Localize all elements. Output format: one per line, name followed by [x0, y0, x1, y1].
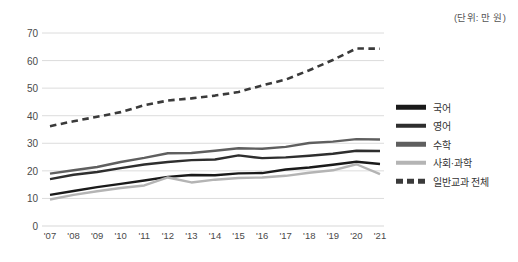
legend-dash-segment: [396, 179, 403, 184]
x-axis: '07'08'09'10'11'12'13'14'15'16'17'18'19'…: [50, 230, 380, 248]
series-line-2: [50, 139, 380, 173]
y-tick-label: 0: [32, 221, 38, 232]
legend-swatch-icon: [396, 121, 426, 131]
y-tick-label: 60: [27, 55, 38, 66]
x-tick-label: '19: [327, 230, 339, 241]
y-tick-label: 20: [27, 165, 38, 176]
x-tick-label: '18: [303, 230, 315, 241]
y-tick-label: 40: [27, 110, 38, 121]
x-tick-label: '10: [115, 230, 127, 241]
y-axis: 010203040506070: [0, 33, 44, 226]
legend-item-2[interactable]: 수학: [396, 135, 516, 154]
legend-item-label: 사회·과학: [433, 155, 472, 170]
legend-item-label: 일반교과 전체: [433, 174, 489, 189]
x-tick-label: '15: [232, 230, 244, 241]
unit-note: (단위: 만 원): [454, 10, 506, 24]
x-tick-label: '20: [350, 230, 362, 241]
legend-item-label: 수학: [433, 137, 451, 152]
x-tick-label: '09: [91, 230, 103, 241]
legend-item-label: 국어: [433, 100, 451, 115]
y-tick-label: 70: [27, 28, 38, 39]
legend-swatch-icon: [396, 102, 426, 112]
x-tick-label: '11: [138, 230, 150, 241]
legend-swatch-icon: [396, 176, 426, 186]
x-tick-label: '13: [185, 230, 197, 241]
chart-legend: 국어영어수학사회·과학일반교과 전체: [396, 98, 516, 191]
legend-item-1[interactable]: 영어: [396, 117, 516, 136]
plot-svg: [50, 33, 380, 226]
line-chart: (단위: 만 원) 010203040506070 '07'08'09'10'1…: [0, 0, 518, 262]
legend-item-0[interactable]: 국어: [396, 98, 516, 117]
legend-dash-segment: [407, 179, 414, 184]
y-tick-label: 10: [27, 193, 38, 204]
legend-item-4[interactable]: 일반교과 전체: [396, 172, 516, 191]
x-tick-label: '16: [256, 230, 268, 241]
legend-item-label: 영어: [433, 118, 451, 133]
legend-bar: [396, 105, 426, 110]
series-line-4: [50, 48, 380, 126]
x-tick-label: '14: [209, 230, 221, 241]
plot-area: [50, 33, 380, 226]
x-tick-label: '21: [374, 230, 386, 241]
legend-bar: [396, 142, 426, 147]
x-tick-label: '17: [280, 230, 292, 241]
x-tick-label: '08: [67, 230, 79, 241]
legend-dash-segment: [418, 179, 425, 184]
x-tick-label: '12: [162, 230, 174, 241]
legend-bar: [396, 124, 426, 129]
legend-swatch-icon: [396, 139, 426, 149]
y-tick-label: 50: [27, 83, 38, 94]
x-tick-label: '07: [44, 230, 56, 241]
legend-swatch-icon: [396, 158, 426, 168]
legend-bar: [396, 161, 426, 166]
y-tick-label: 30: [27, 138, 38, 149]
series-line-3: [50, 164, 380, 199]
legend-item-3[interactable]: 사회·과학: [396, 154, 516, 173]
